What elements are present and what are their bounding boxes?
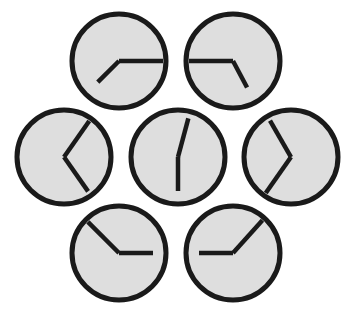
clock-bottom-left [72, 206, 166, 300]
clock-right [244, 110, 338, 204]
clock-collection-svg [0, 0, 343, 310]
clock-left [17, 110, 111, 204]
clock-top-right [186, 14, 280, 108]
clock-top-left [72, 14, 166, 108]
clock-collection-canvas [0, 0, 343, 310]
clock-bottom-right [186, 206, 280, 300]
clock-center [131, 110, 225, 204]
